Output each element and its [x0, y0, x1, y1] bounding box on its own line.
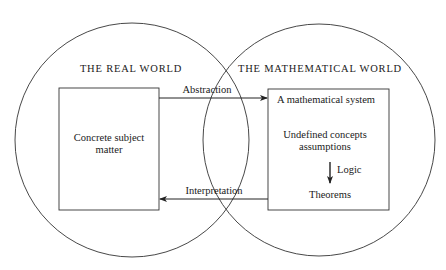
abstraction-label: Abstraction — [183, 84, 233, 95]
logic-label: Logic — [337, 164, 362, 175]
concrete-subject-line2: matter — [96, 144, 123, 155]
diagram-canvas: THE REAL WORLD THE MATHEMATICAL WORLD Co… — [0, 0, 446, 270]
mathematical-system-heading: A mathematical system — [277, 94, 375, 105]
assumptions-text: assumptions — [299, 141, 351, 152]
mathematical-world-title: THE MATHEMATICAL WORLD — [238, 63, 402, 74]
undefined-concepts-text: Undefined concepts — [283, 129, 367, 140]
real-world-title: THE REAL WORLD — [80, 63, 182, 74]
interpretation-label: Interpretation — [185, 185, 243, 196]
concrete-subject-line1: Concrete subject — [74, 132, 144, 143]
theorems-text: Theorems — [309, 189, 351, 200]
